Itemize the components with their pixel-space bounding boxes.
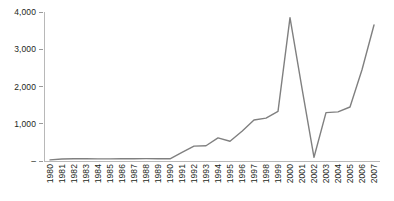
x-axis-tick-label: 1989 — [154, 164, 163, 183]
x-axis-tick-label: 2001 — [298, 164, 307, 183]
x-axis-tick-label: 1993 — [202, 164, 211, 183]
x-axis-tick: 2007 — [368, 162, 380, 200]
x-axis-tick: 1995 — [224, 162, 236, 200]
y-axis-tick-label: 2,000 — [0, 82, 44, 92]
x-axis-tick-label: 2004 — [334, 164, 343, 183]
y-axis-tick-label: 3,000 — [0, 44, 44, 54]
y-axis-tick: 1,000 — [0, 119, 44, 129]
y-axis-tick-mark — [39, 161, 43, 162]
x-axis-tick-label: 2005 — [346, 164, 355, 183]
y-axis-tick-mark — [39, 12, 43, 13]
line-chart: –1,0002,0003,0004,000 198019811982198319… — [0, 0, 394, 201]
series-line-path — [44, 0, 380, 161]
x-axis-tick: 1988 — [140, 162, 152, 200]
x-axis-tick: 1986 — [116, 162, 128, 200]
x-axis-tick: 1980 — [44, 162, 56, 200]
y-axis-tick-label: 4,000 — [0, 7, 44, 17]
x-axis-tick-label: 1992 — [190, 164, 199, 183]
x-axis: 1980198119821983198419851986198719881989… — [44, 162, 380, 201]
x-axis-tick: 1982 — [68, 162, 80, 200]
x-axis-tick: 1984 — [92, 162, 104, 200]
x-axis-tick-label: 1982 — [70, 164, 79, 183]
x-axis-tick-label: 2003 — [322, 164, 331, 183]
x-axis-tick-label: 1999 — [274, 164, 283, 183]
x-axis-tick-label: 1984 — [94, 164, 103, 183]
x-axis-tick-label: 1997 — [250, 164, 259, 183]
x-axis-tick: 1998 — [260, 162, 272, 200]
x-axis-tick: 1994 — [212, 162, 224, 200]
x-axis-tick-label: 1987 — [130, 164, 139, 183]
x-axis-tick: 1990 — [164, 162, 176, 200]
x-axis-tick-label: 1988 — [142, 164, 151, 183]
x-axis-tick-label: 1985 — [106, 164, 115, 183]
x-axis-tick-label: 1990 — [166, 164, 175, 183]
x-axis-tick-label: 1996 — [238, 164, 247, 183]
x-axis-tick: 2004 — [332, 162, 344, 200]
y-axis-tick: 4,000 — [0, 7, 44, 17]
x-axis-tick-label: 2007 — [370, 164, 379, 183]
y-axis-tick-mark — [39, 49, 43, 50]
x-axis-tick-label: 1998 — [262, 164, 271, 183]
x-axis-tick: 1989 — [152, 162, 164, 200]
y-axis-tick: – — [0, 156, 44, 166]
x-axis-tick-label: 1981 — [58, 164, 67, 183]
x-axis-tick-label: 2002 — [310, 164, 319, 183]
x-axis-tick-label: 2006 — [358, 164, 367, 183]
x-axis-tick-label: 1980 — [46, 164, 55, 183]
y-axis-tick: 3,000 — [0, 44, 44, 54]
y-axis-tick-label: – — [0, 156, 44, 166]
x-axis-tick: 2001 — [296, 162, 308, 200]
x-axis-tick: 1991 — [176, 162, 188, 200]
x-axis-tick: 1996 — [236, 162, 248, 200]
x-axis-tick: 2003 — [320, 162, 332, 200]
x-axis-tick: 2005 — [344, 162, 356, 200]
x-axis-tick: 1993 — [200, 162, 212, 200]
x-axis-tick-label: 1991 — [178, 164, 187, 183]
x-axis-tick-label: 1983 — [82, 164, 91, 183]
x-axis-tick: 1987 — [128, 162, 140, 200]
x-axis-tick: 1985 — [104, 162, 116, 200]
x-axis-tick-label: 2000 — [286, 164, 295, 183]
x-axis-tick: 2000 — [284, 162, 296, 200]
x-axis-tick: 1981 — [56, 162, 68, 200]
y-axis-tick: 2,000 — [0, 82, 44, 92]
x-axis-tick-label: 1986 — [118, 164, 127, 183]
x-axis-tick-label: 1995 — [226, 164, 235, 183]
x-axis-tick: 1992 — [188, 162, 200, 200]
y-axis: –1,0002,0003,0004,000 — [0, 0, 44, 201]
y-axis-tick-mark — [39, 123, 43, 124]
x-axis-tick: 1983 — [80, 162, 92, 200]
x-axis-tick-label: 1994 — [214, 164, 223, 183]
y-axis-tick-label: 1,000 — [0, 119, 44, 129]
x-axis-tick: 1999 — [272, 162, 284, 200]
y-axis-tick-mark — [39, 86, 43, 87]
x-axis-tick: 2002 — [308, 162, 320, 200]
x-axis-tick: 1997 — [248, 162, 260, 200]
plot-area — [44, 0, 380, 161]
x-axis-tick: 2006 — [356, 162, 368, 200]
